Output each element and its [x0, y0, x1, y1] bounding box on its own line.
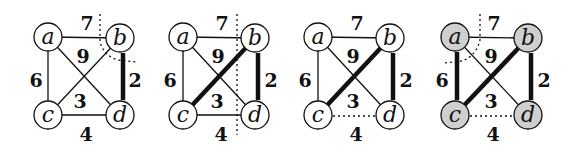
weight-ab: 7 — [487, 12, 500, 34]
weight-bc: 3 — [346, 90, 359, 112]
node-label-b: b — [383, 25, 397, 50]
node-label-a: a — [41, 24, 54, 49]
node-label-c: c — [42, 102, 54, 127]
weight-ab: 7 — [215, 12, 228, 34]
node-label-c: c — [449, 102, 461, 127]
weight-bc: 3 — [73, 90, 86, 112]
weight-ac: 6 — [435, 69, 448, 91]
node-label-a: a — [176, 24, 189, 49]
weight-ad: 9 — [76, 45, 89, 67]
node-label-a: a — [448, 24, 461, 49]
node-label-c: c — [177, 102, 189, 127]
weight-bd: 2 — [537, 69, 550, 91]
weight-cd: 4 — [486, 123, 499, 145]
weight-ac: 6 — [29, 69, 42, 91]
mst-diagram: a b c d 7 9 6 2 3 4 a b c d 7 9 6 2 3 4 — [0, 0, 573, 152]
weight-ad: 9 — [211, 45, 224, 67]
weight-cd: 4 — [214, 123, 227, 145]
panel-1: a b c d 7 9 6 2 3 4 — [29, 12, 141, 145]
weight-bc: 3 — [210, 90, 223, 112]
weight-ab: 7 — [350, 12, 363, 34]
node-label-d: d — [383, 102, 397, 127]
weight-ad: 9 — [484, 45, 497, 67]
weight-bd: 2 — [128, 69, 141, 91]
node-label-a: a — [311, 24, 324, 49]
weight-ac: 6 — [163, 69, 176, 91]
weight-ab: 7 — [80, 12, 93, 34]
panel-4: a b c d 7 9 6 2 3 4 — [435, 12, 550, 145]
node-label-d: d — [113, 102, 127, 127]
panel-2: a b c d 7 9 6 2 3 4 — [163, 12, 277, 145]
weight-ad: 9 — [346, 45, 359, 67]
node-label-b: b — [521, 25, 535, 50]
weight-bc: 3 — [484, 90, 497, 112]
node-label-c: c — [312, 102, 324, 127]
node-label-b: b — [113, 25, 127, 50]
node-label-d: d — [248, 102, 262, 127]
weight-cd: 4 — [79, 123, 92, 145]
weight-ac: 6 — [298, 69, 311, 91]
weight-cd: 4 — [349, 123, 362, 145]
weight-bd: 2 — [399, 69, 412, 91]
panel-3: a b c d 7 9 6 2 3 4 — [298, 12, 412, 145]
node-label-b: b — [248, 25, 262, 50]
node-label-d: d — [521, 102, 535, 127]
weight-bd: 2 — [264, 69, 277, 91]
